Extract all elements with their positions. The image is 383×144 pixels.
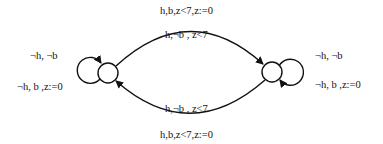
label-top-outer: h,b,z<7,z:=0: [160, 5, 213, 17]
label-top-inner: h,¬b , z<7: [165, 29, 208, 41]
label-left-loop-2: ¬h, b ,z:=0: [17, 81, 63, 93]
state-left: [98, 63, 118, 83]
label-bottom-inner: h,¬b , z<7: [165, 103, 208, 115]
label-bottom-outer: h,b,z<7,z:=0: [160, 129, 213, 141]
label-left-loop-1: ¬h, ¬b: [30, 50, 58, 62]
label-right-loop-2: ¬h, b ,z:=0: [315, 79, 361, 91]
diagram-canvas: [0, 0, 383, 144]
self-loop-left: [77, 57, 101, 83]
label-right-loop-1: ¬h, ¬b: [315, 50, 343, 62]
